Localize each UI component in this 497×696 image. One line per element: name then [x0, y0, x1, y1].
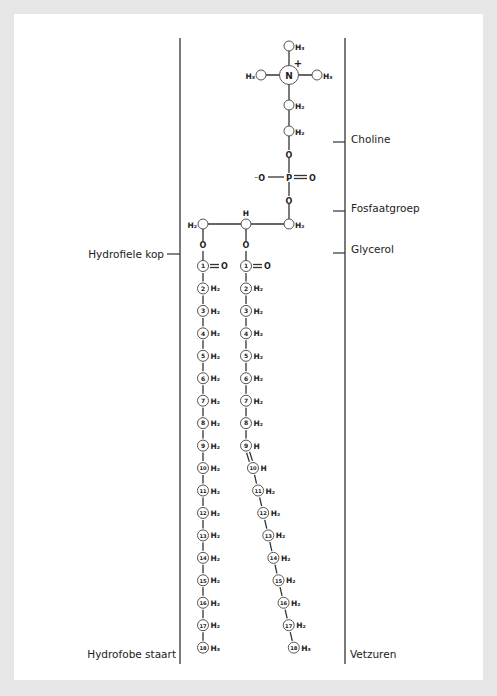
glycerol-carbon-circle [284, 219, 294, 229]
nitrogen-symbol: N [285, 71, 293, 81]
carbon-number: 11 [254, 488, 262, 494]
hydrogen-label: H₂ [211, 397, 221, 406]
carbon-number: 12 [199, 510, 207, 516]
oxygen-label: O [286, 197, 293, 206]
chain-bond-line [255, 475, 257, 484]
hydrogen-label: H₂ [271, 509, 281, 518]
carbon-number: 9 [201, 442, 205, 449]
glycerol-h-label: H₂ [295, 221, 305, 230]
carbon-number: 5 [201, 352, 205, 359]
label-glycerol: Glycerol [351, 243, 394, 255]
carbon-number: 10 [199, 465, 207, 471]
methylene-label: H₂ [295, 102, 305, 111]
carbon-number: 15 [199, 578, 207, 584]
hydrogen-label: H₂ [211, 464, 221, 473]
hydrogen-label: H₂ [211, 576, 221, 585]
methylene-carbon-circle [284, 100, 294, 110]
hydrogen-label: H₂ [281, 554, 291, 563]
hydrogen-label: H₂ [211, 487, 221, 496]
positive-charge: + [294, 58, 302, 69]
carbonyl-oxygen-label: O [221, 262, 228, 271]
carbon-number: 8 [201, 419, 205, 426]
label-hydrophobic-tail: Hydrofobe staart [87, 648, 176, 660]
hydrogen-label: H₂ [291, 599, 301, 608]
carbon-number: 2 [244, 285, 248, 292]
carbon-number: 5 [244, 352, 248, 359]
ester-oxygen-label: O [243, 241, 250, 250]
hydrogen-label: H₂ [211, 307, 221, 316]
hydrogen-label: H₂ [286, 576, 296, 585]
glycerol-h-label: H [243, 209, 249, 218]
carbon-number: 15 [275, 578, 283, 584]
charged-oxygen-label: ⁻O [254, 174, 265, 183]
carbon-number: 1 [201, 262, 205, 269]
label-phosphate-group: Fosfaatgroep [351, 202, 420, 214]
hydrogen-label: H₂ [211, 554, 221, 563]
hydrogen-label: H₂ [211, 284, 221, 293]
hydrogen-label: H₂ [211, 442, 221, 451]
carbonyl-oxygen-label: O [264, 262, 271, 271]
hydrogen-label: H₂ [211, 374, 221, 383]
chain-bond-line [280, 587, 282, 596]
hydrogen-label: H₂ [254, 329, 264, 338]
hydrogen-label: H₂ [266, 487, 276, 496]
hydrogen-label: H₂ [254, 284, 264, 293]
carbon-number: 1 [244, 262, 248, 269]
carbon-number: 10 [249, 465, 257, 471]
hydrogen-label: H₂ [211, 599, 221, 608]
hydrogen-label: H [254, 442, 260, 451]
carbon-number: 13 [265, 533, 273, 539]
carbon-number: 7 [201, 397, 205, 404]
hydrogen-label: H₂ [276, 531, 286, 540]
carbon-number: 8 [244, 419, 248, 426]
hydrogen-label: H₂ [211, 621, 221, 630]
double-bond-line [247, 453, 250, 462]
oxygen-label: O [286, 151, 293, 160]
methyl-label: H₃ [245, 72, 255, 81]
carbon-number: 17 [285, 623, 293, 629]
hydrogen-label: H₃ [301, 644, 311, 653]
ester-oxygen-label: O [200, 241, 207, 250]
carbon-number: 14 [270, 555, 278, 561]
carbon-number: 13 [199, 533, 207, 539]
carbon-number: 17 [199, 623, 207, 629]
chain-bond-line [275, 565, 277, 574]
label-hydrophilic-head: Hydrofiele kop [88, 248, 164, 260]
carbon-number: 14 [199, 555, 207, 561]
hydrogen-label: H₂ [211, 329, 221, 338]
label-choline: Choline [351, 133, 390, 145]
hydrogen-label: H₂ [254, 374, 264, 383]
phosphorus-label: P [286, 173, 292, 183]
carbon-number: 4 [201, 330, 205, 337]
methyl-carbon-circle [256, 70, 266, 80]
methylene-carbon-circle [284, 126, 294, 136]
double-oxygen-label: O [309, 174, 316, 183]
carbon-number: 3 [244, 307, 248, 314]
double-bond-line [250, 452, 253, 461]
label-fatty-acids: Vetzuren [350, 648, 396, 660]
carbon-number: 18 [290, 645, 298, 651]
glycerol-carbon-circle [241, 219, 251, 229]
carbon-number: 9 [244, 442, 248, 449]
carbon-number: 7 [244, 397, 248, 404]
carbon-number: 4 [244, 330, 248, 337]
chain-bond-line [290, 632, 292, 641]
carbon-number: 2 [201, 285, 205, 292]
carbon-number: 12 [260, 510, 268, 516]
methyl-label: H₃ [323, 72, 333, 81]
chain-bond-line [260, 497, 262, 506]
hydrogen-label: H₂ [296, 621, 306, 630]
methyl-carbon-circle [284, 41, 294, 51]
hydrogen-label: H₂ [211, 352, 221, 361]
hydrogen-label: H₂ [254, 352, 264, 361]
hydrogen-label: H₂ [254, 419, 264, 428]
hydrogen-label: H₂ [211, 419, 221, 428]
glycerol-h-label: H₂ [187, 221, 197, 230]
carbon-number: 16 [280, 600, 288, 606]
hydrogen-label: H₃ [211, 644, 221, 653]
phospholipid-diagram: Hydrofiele kop Hydrofobe staart Choline … [0, 0, 497, 696]
methyl-carbon-circle [312, 70, 322, 80]
carbon-number: 18 [199, 645, 207, 651]
chain-bond-line [265, 520, 267, 529]
carbon-number: 11 [199, 488, 207, 494]
